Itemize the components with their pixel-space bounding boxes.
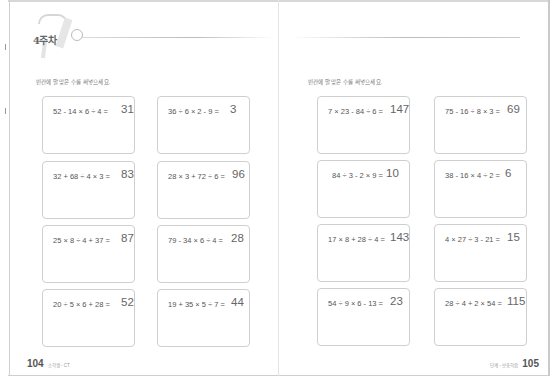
problem-expression: 28 ÷ 4 + 2 × 54 = (445, 299, 502, 308)
problem-box: 75 - 16 ÷ 8 × 3 = 69 (434, 96, 527, 154)
problem-answer[interactable]: 83 (121, 168, 134, 180)
problem-expression: 75 - 16 ÷ 8 × 3 = (445, 107, 500, 116)
problem-box: 36 ÷ 6 × 2 - 9 = 3 (157, 96, 250, 154)
problem-expression: 25 × 8 ÷ 4 + 37 = (53, 236, 110, 245)
problem-box: 4 × 27 ÷ 3 - 21 = 15 (434, 224, 527, 282)
problem-answer[interactable]: 6 (505, 167, 511, 179)
page-right-edge (548, 0, 550, 376)
problem-expression: 36 ÷ 6 × 2 - 9 = (168, 107, 219, 116)
circle-stamp-icon (71, 29, 83, 41)
problem-expression: 4 × 27 ÷ 3 - 21 = (445, 235, 500, 244)
problem-expression: 54 ÷ 9 × 6 - 13 = (328, 299, 383, 308)
page-number: 105 (522, 358, 539, 369)
problem-expression: 52 - 14 × 6 ÷ 4 = (53, 107, 108, 116)
problem-box: 7 × 23 - 84 ÷ 6 = 147 (317, 96, 410, 154)
problem-expression: 84 ÷ 3 - 2 × 9 = (332, 171, 383, 180)
problem-expression: 19 + 35 × 5 ÷ 7 = (168, 300, 225, 309)
problem-answer[interactable]: 96 (232, 168, 245, 180)
problem-box: 19 + 35 × 5 ÷ 7 = 44 (157, 289, 250, 347)
book-spread: 4주차 빈칸에 알맞은 수를 써넣으세요. 52 - 14 × 6 ÷ 4 = … (0, 0, 557, 382)
problem-answer[interactable]: 31 (121, 103, 134, 115)
footer-text: 소학생 - CT (48, 362, 70, 368)
instruction-left: 빈칸에 알맞은 수를 써넣으세요. (36, 78, 111, 86)
problem-answer[interactable]: 143 (390, 231, 409, 243)
problem-answer[interactable]: 52 (121, 296, 134, 308)
problem-expression: 79 - 34 × 6 ÷ 4 = (168, 236, 223, 245)
problem-box: 25 × 8 ÷ 4 + 37 = 87 (42, 225, 135, 283)
problem-answer[interactable]: 115 (507, 295, 525, 307)
problem-expression: 7 × 23 - 84 ÷ 6 = (328, 107, 383, 116)
problem-answer[interactable]: 3 (230, 103, 236, 115)
instruction-right: 빈칸에 알맞은 수를 써넣으세요. (308, 78, 383, 86)
page-footer-right: 단계 - 보충학습 105 (490, 358, 539, 369)
problem-answer[interactable]: 87 (121, 232, 134, 244)
page-gutter (278, 0, 279, 376)
problem-answer[interactable]: 147 (390, 103, 409, 115)
problem-answer[interactable]: 15 (507, 231, 520, 243)
problem-expression: 32 + 68 ÷ 4 × 3 = (53, 172, 110, 181)
problem-box: 38 - 16 × 4 ÷ 2 = 6 (434, 160, 527, 218)
header-rule-right (290, 37, 520, 38)
footer-text: 단계 - 보충학습 (490, 362, 518, 368)
margin-tick (5, 44, 6, 50)
problem-expression: 17 × 8 + 28 ÷ 4 = (328, 235, 385, 244)
margin-tick (5, 108, 6, 114)
problem-box: 20 ÷ 5 × 6 + 28 = 52 (42, 289, 135, 347)
problem-answer[interactable]: 69 (507, 103, 520, 115)
problem-answer[interactable]: 10 (386, 167, 399, 179)
problem-answer[interactable]: 28 (231, 232, 244, 244)
problem-answer[interactable]: 23 (390, 295, 403, 307)
page-left-edge (9, 0, 10, 376)
problem-box: 84 ÷ 3 - 2 × 9 = 10 (317, 160, 410, 218)
header-rule-left (75, 37, 275, 38)
problem-answer[interactable]: 44 (231, 296, 244, 308)
week-label: 4주차 (33, 32, 56, 47)
page-number: 104 (27, 358, 44, 369)
problem-box: 79 - 34 × 6 ÷ 4 = 28 (157, 225, 250, 283)
problem-box: 17 × 8 + 28 ÷ 4 = 143 (317, 224, 410, 282)
problem-box: 52 - 14 × 6 ÷ 4 = 31 (42, 96, 135, 154)
problem-box: 28 × 3 + 72 ÷ 6 = 96 (157, 161, 250, 219)
problem-expression: 38 - 16 × 4 ÷ 2 = (445, 171, 500, 180)
problem-box: 32 + 68 ÷ 4 × 3 = 83 (42, 161, 135, 219)
problem-box: 28 ÷ 4 + 2 × 54 = 115 (434, 288, 527, 346)
problem-expression: 20 ÷ 5 × 6 + 28 = (53, 300, 110, 309)
week-badge: 4주차 (24, 12, 86, 60)
page-footer-left: 104 소학생 - CT (27, 358, 70, 369)
problem-expression: 28 × 3 + 72 ÷ 6 = (168, 172, 225, 181)
problem-box: 54 ÷ 9 × 6 - 13 = 23 (317, 288, 410, 346)
